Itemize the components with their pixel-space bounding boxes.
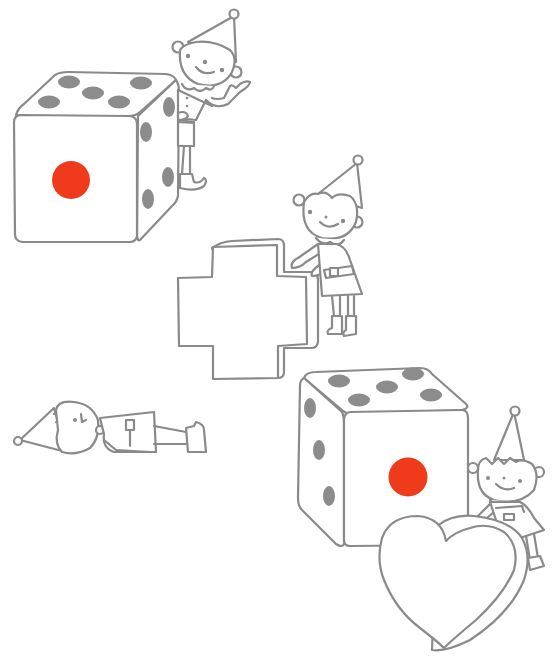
elf-lying	[14, 402, 206, 454]
red-pip	[52, 161, 90, 199]
illustration	[0, 0, 556, 662]
die-top-left	[14, 72, 179, 242]
die-bottom-right	[298, 368, 468, 547]
red-pip	[389, 458, 428, 497]
heart-block	[379, 516, 527, 651]
elf-peeking	[173, 10, 251, 190]
